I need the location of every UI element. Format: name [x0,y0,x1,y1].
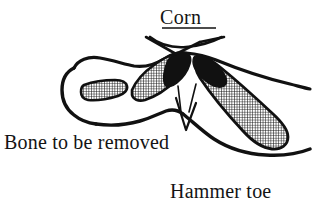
label-corn: Corn [160,6,201,29]
label-bone-to-be-removed: Bone to be removed [4,131,169,154]
label-hammer-toe: Hammer toe [170,180,271,203]
